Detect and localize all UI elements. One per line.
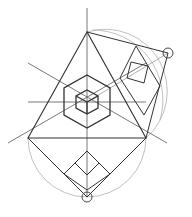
diag-axis-left <box>8 63 146 143</box>
cube-edge-2 <box>76 96 87 102</box>
construction-circles <box>28 29 167 197</box>
right-square-construction <box>87 32 168 138</box>
square-outer <box>87 32 168 138</box>
cube-edge-3 <box>87 96 98 102</box>
axes <box>8 8 168 197</box>
diagram-canvas <box>0 0 192 217</box>
markers <box>82 48 173 202</box>
square-inner <box>120 46 160 115</box>
geometric-diagram <box>0 0 192 217</box>
